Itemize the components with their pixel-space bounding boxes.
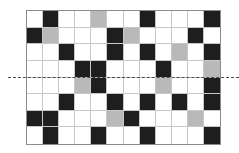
grid-cell-white <box>124 127 140 144</box>
grid-cell-white <box>188 127 204 144</box>
grid-cell-white <box>27 127 43 144</box>
grid-cell-white <box>75 28 91 45</box>
grid-cell-white <box>172 78 188 95</box>
grid-cell-black <box>91 127 107 144</box>
grid-cell-black <box>204 94 220 111</box>
grid-cell-white <box>91 94 107 111</box>
grid-cell-white <box>27 44 43 61</box>
grid-cell-white <box>43 78 59 95</box>
grid-cell-white <box>188 11 204 28</box>
grid-cell-white <box>27 11 43 28</box>
grid-cell-gray <box>107 111 123 128</box>
grid-cell-white <box>75 94 91 111</box>
grid-cell-white <box>124 61 140 78</box>
grid-cell-black <box>43 111 59 128</box>
grid-cell-gray <box>204 61 220 78</box>
grid-cell-gray <box>91 11 107 28</box>
grid-cell-gray <box>75 78 91 95</box>
grid-cell-white <box>75 127 91 144</box>
grid-cell-white <box>156 111 172 128</box>
grid-cell-white <box>124 94 140 111</box>
grid-cell-gray <box>172 44 188 61</box>
grid-cell-white <box>107 61 123 78</box>
grid-cell-white <box>107 127 123 144</box>
grid-cell-white <box>75 111 91 128</box>
grid-cell-white <box>59 127 75 144</box>
grid-cell-white <box>124 11 140 28</box>
grid-cell-black <box>59 44 75 61</box>
grid-cell-white <box>172 11 188 28</box>
grid-cell-black <box>91 78 107 95</box>
grid-cell-white <box>188 94 204 111</box>
grid-cell-white <box>59 11 75 28</box>
grid-cell-black <box>107 28 123 45</box>
grid-cell-black <box>156 61 172 78</box>
grid-cell-white <box>140 28 156 45</box>
grid-cell-black <box>188 28 204 45</box>
grid-cell-white <box>172 127 188 144</box>
grid-cell-black <box>204 78 220 95</box>
grid-cell-white <box>172 111 188 128</box>
grid-cell-white <box>59 28 75 45</box>
grid-cell-black <box>140 11 156 28</box>
grid-cell-white <box>156 11 172 28</box>
grid-cell-white <box>91 28 107 45</box>
grid-cell-black <box>59 94 75 111</box>
grid-cell-white <box>188 61 204 78</box>
grid-cell-white <box>140 78 156 95</box>
grid-cell-white <box>27 78 43 95</box>
grid-cell-white <box>59 61 75 78</box>
grid-cell-white <box>172 28 188 45</box>
grid-cell-white <box>124 44 140 61</box>
grid-cell-white <box>204 111 220 128</box>
grid-cell-white <box>156 28 172 45</box>
grid-cell-white <box>27 94 43 111</box>
grid-cell-black <box>43 11 59 28</box>
grid-cell-black <box>107 94 123 111</box>
grid-cell-white <box>43 61 59 78</box>
grid-cell-white <box>43 94 59 111</box>
grid-cell-black <box>204 11 220 28</box>
grid-cell-white <box>59 78 75 95</box>
grid-cell-black <box>27 111 43 128</box>
grid-cell-black <box>124 111 140 128</box>
grid-cell-black <box>140 94 156 111</box>
grid-cell-gray <box>188 111 204 128</box>
grid-cell-white <box>140 61 156 78</box>
diagram-canvas <box>0 0 239 153</box>
grid-cell-black <box>140 127 156 144</box>
grid-cell-white <box>43 44 59 61</box>
grid-cell-white <box>204 28 220 45</box>
grid-cell-white <box>188 78 204 95</box>
grid-cell-black <box>75 61 91 78</box>
grid-cell-black <box>107 44 123 61</box>
grid-cell-black <box>140 44 156 61</box>
grid-cell-gray <box>156 78 172 95</box>
grid-cell-white <box>188 44 204 61</box>
grid-cell-black <box>27 28 43 45</box>
grid-cell-white <box>140 111 156 128</box>
grid-cell-black <box>172 94 188 111</box>
grid-cell-white <box>172 61 188 78</box>
dashed-fold-line <box>8 77 239 78</box>
grid-cell-gray <box>124 28 140 45</box>
grid-cell-black <box>204 44 220 61</box>
grid-cell-white <box>107 78 123 95</box>
grid-cell-gray <box>43 28 59 45</box>
grid-cell-white <box>156 94 172 111</box>
grid-cell-white <box>91 44 107 61</box>
grid-cell-white <box>156 127 172 144</box>
grid-cell-white <box>59 111 75 128</box>
grid-cell-black <box>43 127 59 144</box>
grid-cell-white <box>75 44 91 61</box>
grid-cell-white <box>75 11 91 28</box>
grid-cell-white <box>107 11 123 28</box>
grid-cell-white <box>91 111 107 128</box>
grid-cell-white <box>156 44 172 61</box>
grid-cell-black <box>204 127 220 144</box>
grid-cell-white <box>124 78 140 95</box>
grid-cell-white <box>27 61 43 78</box>
grid-cell-black <box>91 61 107 78</box>
